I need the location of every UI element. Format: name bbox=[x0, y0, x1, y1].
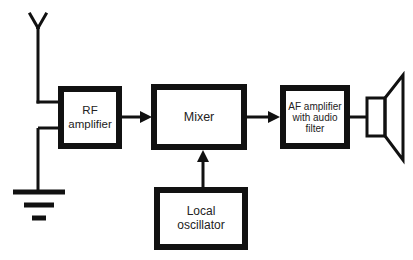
lo-to-mixer-arrow bbox=[197, 150, 209, 187]
af-label-line-3: filter bbox=[288, 123, 341, 134]
local-oscillator-block: Local oscillator bbox=[154, 187, 248, 250]
speaker-icon bbox=[350, 75, 403, 160]
mixer-to-af-arrow bbox=[247, 111, 280, 123]
af-label-line-2: with audio bbox=[288, 112, 341, 123]
af-amplifier-block: AF amplifier with audio filter bbox=[280, 85, 350, 149]
mixer-block: Mixer bbox=[151, 84, 247, 150]
af-label-line-1: AF amplifier bbox=[288, 101, 341, 112]
rf-label-line-1: RF bbox=[68, 104, 111, 117]
rf-to-mixer-arrow bbox=[122, 111, 152, 123]
lo-label-line-1: Local bbox=[177, 205, 224, 219]
mixer-label: Mixer bbox=[184, 110, 215, 124]
antenna-icon bbox=[30, 14, 58, 102]
rf-label-line-2: amplifier bbox=[68, 118, 111, 131]
rf-amplifier-block: RF amplifier bbox=[58, 86, 122, 149]
lo-label-line-2: oscillator bbox=[177, 219, 224, 233]
